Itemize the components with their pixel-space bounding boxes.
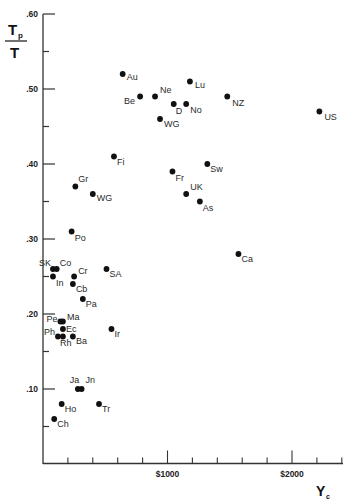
y-title-numerator: T xyxy=(8,21,17,38)
data-point: WG xyxy=(157,116,179,129)
data-point: Ho xyxy=(59,401,76,414)
data-point: NZ xyxy=(224,94,244,108)
x-tick-label: $2000 xyxy=(280,469,304,479)
point-label: Pe xyxy=(46,314,57,324)
point-marker xyxy=(72,184,78,190)
data-point: Gr xyxy=(72,174,88,190)
point-marker xyxy=(183,191,189,197)
point-label: US xyxy=(324,112,337,122)
point-label: Fr xyxy=(175,173,184,183)
data-point: As xyxy=(197,199,214,213)
point-label: Be xyxy=(124,96,135,106)
point-label: SA xyxy=(109,269,121,279)
data-point: Co xyxy=(54,258,71,272)
y-axis-ticks: .60.50.40.30.20.10 xyxy=(26,9,55,427)
data-point: No xyxy=(183,101,201,115)
data-point: SA xyxy=(104,266,122,279)
data-point: Ir xyxy=(109,326,120,339)
point-label: No xyxy=(190,105,202,115)
data-point: Lu xyxy=(187,79,205,90)
point-label: WG xyxy=(164,119,180,129)
point-label: Po xyxy=(75,233,86,243)
x-title: Y xyxy=(316,483,326,499)
point-marker xyxy=(71,274,77,280)
point-label: Ho xyxy=(65,404,77,414)
x-tick-label: $1000 xyxy=(156,469,180,479)
point-label: Ma xyxy=(67,312,80,322)
data-point: WG xyxy=(90,191,112,203)
y-axis-title: T p T xyxy=(5,21,27,61)
y-tick-label: .50 xyxy=(26,84,38,94)
data-point: Pa xyxy=(80,296,97,309)
data-point: Ec xyxy=(60,324,77,334)
y-tick-label: .60 xyxy=(26,9,38,19)
scatter-chart: T p T .60.50.40.30.20.10 $1000$2000 Y c … xyxy=(0,0,351,503)
data-point: Sw xyxy=(204,161,223,174)
data-point: SK xyxy=(39,258,56,272)
data-point: In xyxy=(50,274,63,288)
point-marker xyxy=(316,109,322,115)
point-label: Ba xyxy=(76,336,87,346)
point-label: Ec xyxy=(66,324,77,334)
data-point: Ph xyxy=(44,327,61,340)
point-marker xyxy=(152,94,158,100)
x-title-subscript: c xyxy=(326,493,330,500)
point-label: Fi xyxy=(117,157,125,167)
point-label: Cb xyxy=(76,284,88,294)
point-label: Cr xyxy=(78,266,88,276)
point-label: Ne xyxy=(160,85,172,95)
point-label: Jn xyxy=(86,375,96,385)
point-marker xyxy=(79,386,85,392)
y-tick-label: .30 xyxy=(26,234,38,244)
point-label: D xyxy=(176,106,183,116)
point-label: Pa xyxy=(86,299,97,309)
data-point: Fr xyxy=(170,169,184,183)
point-marker xyxy=(137,94,143,100)
data-point: Ma xyxy=(60,312,79,325)
point-label: In xyxy=(56,278,64,288)
point-label: As xyxy=(203,203,214,213)
point-label: Tr xyxy=(102,404,110,414)
data-point: Ch xyxy=(51,416,68,429)
point-marker xyxy=(183,101,189,107)
data-point: Jn xyxy=(79,375,95,392)
point-label: Ph xyxy=(44,327,55,337)
data-point: Ba xyxy=(70,334,87,346)
point-marker xyxy=(90,191,96,197)
point-label: Gr xyxy=(78,174,88,184)
data-point: US xyxy=(316,109,336,122)
point-label: Ca xyxy=(241,254,253,264)
x-axis-title: Y c xyxy=(316,483,330,500)
point-marker xyxy=(120,71,126,77)
data-point: Po xyxy=(69,229,86,243)
point-label: Rh xyxy=(60,338,72,348)
y-tick-label: .20 xyxy=(26,309,38,319)
y-tick-label: .40 xyxy=(26,159,38,169)
data-point: Ne xyxy=(152,85,171,100)
point-label: UK xyxy=(190,182,203,192)
point-label: Au xyxy=(127,72,138,82)
y-tick-label: .10 xyxy=(26,384,38,394)
data-point: Fi xyxy=(111,154,124,167)
point-marker xyxy=(224,94,230,100)
point-label: Ja xyxy=(70,375,80,385)
data-point: Cr xyxy=(71,266,87,280)
data-point: Ca xyxy=(236,251,253,264)
data-point: Cb xyxy=(70,281,87,294)
data-point: D xyxy=(171,101,183,116)
data-point: UK xyxy=(183,182,202,197)
y-title-denominator: T xyxy=(10,44,19,61)
point-label: Lu xyxy=(195,80,205,90)
data-point: Rh xyxy=(60,334,72,348)
point-label: Co xyxy=(60,258,72,268)
data-point: Au xyxy=(120,71,138,82)
point-label: WG xyxy=(97,193,113,203)
point-label: SK xyxy=(39,258,51,268)
data-point: Tr xyxy=(96,401,110,414)
data-point: Be xyxy=(124,94,143,106)
point-marker xyxy=(187,79,193,85)
point-label: Ch xyxy=(57,419,69,429)
point-label: Sw xyxy=(210,164,223,174)
y-title-subscript: p xyxy=(18,31,23,40)
data-points: AuNeBeLuDNoNZWGUSFiGrWGSwFrUKAsCaPoSKCoI… xyxy=(39,71,337,429)
